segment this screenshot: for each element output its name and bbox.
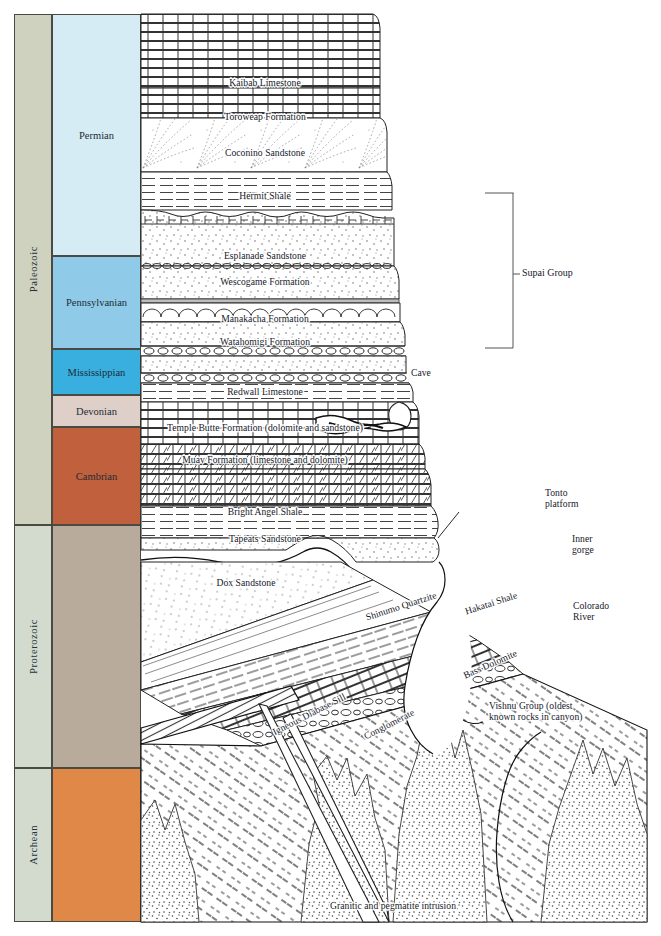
era-label: Paleozoic xyxy=(28,246,39,292)
era-band: Archean xyxy=(14,768,52,922)
formation-label: Dox Sandstone xyxy=(216,577,275,588)
formation-label: Hermit Shale xyxy=(239,190,291,201)
era-label: Proterozoic xyxy=(28,619,39,674)
era-label: Archean xyxy=(28,825,39,865)
formation-label: Kaibab Limestone xyxy=(229,77,300,88)
era-column: Paleozoic Proterozoic Archean xyxy=(14,14,52,922)
period-band: Mississippian xyxy=(52,349,141,395)
supai-group-label: Supai Group xyxy=(522,267,573,278)
annotation-label: Granitic and pegmatite intrusion xyxy=(330,900,456,911)
formation-label: Wescogame Formation xyxy=(220,276,309,287)
formation-label: Toroweap Formation xyxy=(224,111,306,122)
annotation-label: Tonto platform xyxy=(545,487,578,510)
period-label: Devonian xyxy=(76,406,117,417)
period-band: Permian xyxy=(52,14,141,256)
period-label: Cambrian xyxy=(76,471,117,482)
annotation-label: Vishnu Group (oldest known rocks in cany… xyxy=(489,700,583,723)
cross-section-figure: Paleozoic Proterozoic Archean Permian Pe… xyxy=(0,0,661,936)
period-label: Pennsylvanian xyxy=(66,297,127,308)
formation-label: Redwall Limestone xyxy=(227,386,303,397)
formation-label: Bright Angel Shale xyxy=(228,506,302,517)
formation-label: Muav Formation (limestone and dolomite) xyxy=(182,454,348,465)
period-label: Permian xyxy=(79,130,114,141)
canyon-cross-section xyxy=(141,14,647,922)
formation-label: Temple Butte Formation (dolomite and san… xyxy=(167,422,363,433)
era-band: Paleozoic xyxy=(14,14,52,525)
formation-label: Esplanade Sandstone xyxy=(224,250,306,261)
period-band: Devonian xyxy=(52,395,141,427)
period-band xyxy=(52,525,141,768)
period-band xyxy=(52,768,141,922)
cross-section-drawing xyxy=(141,14,647,922)
annotation-label: Cave xyxy=(411,367,431,378)
formation-label: Watahomigi Formation xyxy=(220,336,310,347)
period-band: Cambrian xyxy=(52,427,141,525)
annotation-label: Inner gorge xyxy=(572,533,594,556)
formation-label: Coconino Sandstone xyxy=(225,147,305,158)
period-band: Pennsylvanian xyxy=(52,256,141,349)
era-band: Proterozoic xyxy=(14,525,52,768)
annotation-label: Colorado River xyxy=(573,600,609,623)
formation-label: Manakacha Formation xyxy=(221,313,309,324)
formation-label: Tapeats Sandstone xyxy=(229,533,301,544)
period-column: Permian Pennsylvanian Mississippian Devo… xyxy=(52,14,141,922)
period-label: Mississippian xyxy=(68,367,126,378)
